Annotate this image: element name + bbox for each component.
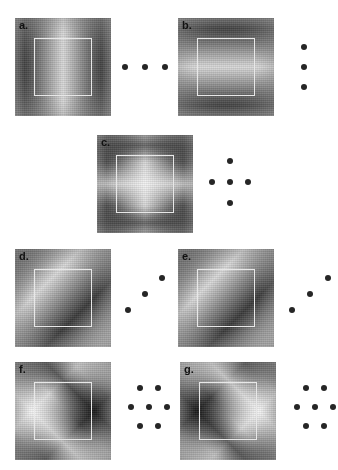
plaid-layer-2 <box>180 362 276 460</box>
dot <box>303 423 309 429</box>
grating-stimulus-g <box>180 362 276 460</box>
dot <box>125 307 131 313</box>
grating-layer <box>178 18 274 116</box>
panel-a: a. <box>15 18 111 116</box>
dot <box>301 44 307 50</box>
dot <box>312 404 318 410</box>
panel-label-d: d. <box>19 250 29 262</box>
dot <box>303 385 309 391</box>
dot <box>155 385 161 391</box>
dot <box>289 307 295 313</box>
grating-stimulus-d <box>15 249 111 347</box>
panel-label-c: c. <box>101 136 110 148</box>
panel-label-e: e. <box>182 250 191 262</box>
dot-pattern-e <box>282 249 338 347</box>
dot <box>321 423 327 429</box>
dot <box>142 64 148 70</box>
dot <box>301 84 307 90</box>
panel-c: c. <box>97 135 193 233</box>
dot <box>227 200 233 206</box>
dot <box>245 179 251 185</box>
panel-f: f. <box>15 362 111 460</box>
dot <box>128 404 134 410</box>
dot <box>227 179 233 185</box>
dot <box>307 291 313 297</box>
grating-layer <box>15 249 111 347</box>
grating-stimulus-f <box>15 362 111 460</box>
dot <box>146 404 152 410</box>
plaid-layer-2 <box>15 362 111 460</box>
panel-label-b: b. <box>182 19 192 31</box>
dot <box>321 385 327 391</box>
dot <box>227 158 233 164</box>
dot-pattern-f <box>118 362 178 460</box>
panel-g: g. <box>180 362 276 460</box>
dot <box>159 275 165 281</box>
panel-label-a: a. <box>19 19 28 31</box>
grating-stimulus-b <box>178 18 274 116</box>
dot <box>294 404 300 410</box>
dot <box>137 385 143 391</box>
panel-label-g: g. <box>184 363 194 375</box>
panel-e: e. <box>178 249 274 347</box>
dot <box>137 423 143 429</box>
grating-stimulus-e <box>178 249 274 347</box>
grating-stimulus-c <box>97 135 193 233</box>
panel-d: d. <box>15 249 111 347</box>
panel-label-f: f. <box>19 363 26 375</box>
dot <box>209 179 215 185</box>
dot-pattern-d <box>118 249 178 347</box>
dot <box>325 275 331 281</box>
dot <box>142 291 148 297</box>
plaid-layer-2 <box>97 135 193 233</box>
dot-pattern-c <box>200 135 270 233</box>
dot <box>164 404 170 410</box>
dot <box>155 423 161 429</box>
dot <box>330 404 336 410</box>
dot <box>122 64 128 70</box>
panel-b: b. <box>178 18 274 116</box>
dot-pattern-b <box>284 18 334 116</box>
grating-layer <box>178 249 274 347</box>
dot <box>162 64 168 70</box>
dot <box>301 64 307 70</box>
grating-layer <box>15 18 111 116</box>
stimulus-figure: a.b.c.d.e.f.g. <box>0 0 338 470</box>
grating-stimulus-a <box>15 18 111 116</box>
dot-pattern-g <box>284 362 338 460</box>
